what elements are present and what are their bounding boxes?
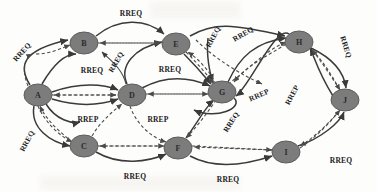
node-label-G: G bbox=[219, 88, 225, 97]
edge-c-f-solid bbox=[96, 152, 166, 161]
edge-j-i-dashed bbox=[300, 110, 340, 146]
edge-label-b-e: RREQ bbox=[120, 9, 142, 18]
edge-d-e-solid bbox=[125, 42, 162, 84]
node-label-D: D bbox=[129, 91, 135, 100]
edge-g-h-solid bbox=[228, 38, 286, 82]
edge-d-a-solid bbox=[52, 99, 118, 104]
edge-label-f-i: RREQ bbox=[217, 175, 239, 184]
edge-label-g-d: RREP bbox=[147, 115, 168, 124]
network-graph-svg: A B C D E F G H I J bbox=[0, 0, 377, 192]
edge-a-self-arrow bbox=[46, 104, 80, 122]
edge-h-g-rrep bbox=[236, 33, 289, 96]
edge-i-j-solid bbox=[298, 112, 344, 146]
edge-label-c-f: RREQ bbox=[124, 172, 146, 181]
node-label-H: H bbox=[296, 38, 303, 47]
edge-label-e-g: RREQ bbox=[159, 65, 181, 74]
edge-b-e-solid bbox=[96, 22, 164, 36]
edge-c-a-dashed bbox=[40, 106, 72, 142]
edge-label-i-j: RREQ bbox=[330, 156, 352, 165]
node-label-F: F bbox=[176, 144, 181, 153]
edge-a-b-solid-2 bbox=[42, 54, 76, 84]
edge-label-d-a: RREP bbox=[77, 115, 98, 124]
edge-f-i-solid bbox=[190, 156, 272, 164]
edge-a-d-solid bbox=[52, 85, 118, 92]
edge-d-f-dashed bbox=[130, 106, 166, 142]
node-label-C: C bbox=[81, 142, 87, 151]
network-diagram-canvas: A B C D E F G H I J RREQ RREQ RREQ RREQ … bbox=[0, 0, 377, 192]
edge-label-a-d: RREQ bbox=[81, 66, 103, 75]
node-label-B: B bbox=[81, 39, 87, 48]
edge-g-h-dashed bbox=[228, 42, 286, 84]
node-label-I: I bbox=[284, 148, 287, 157]
node-label-A: A bbox=[35, 91, 41, 100]
node-label-E: E bbox=[173, 40, 178, 49]
node-label-J: J bbox=[343, 96, 347, 105]
edge-b-a-dashed-2 bbox=[36, 45, 70, 54]
edge-f-g-solid bbox=[186, 100, 214, 138]
nodes-group: A B C D E F G H I J bbox=[24, 31, 359, 163]
edge-d-g-solid bbox=[142, 79, 210, 88]
